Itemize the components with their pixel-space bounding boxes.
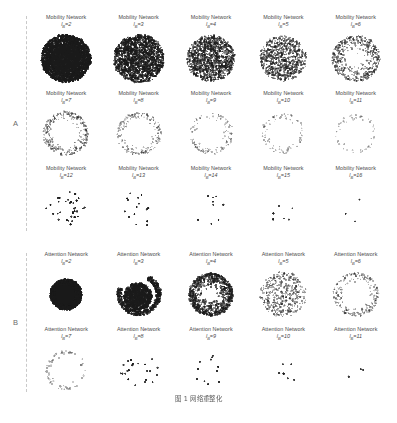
panel-title: Attention Network bbox=[189, 251, 232, 258]
panel-boxsize-label: lB=7 bbox=[61, 97, 71, 107]
pointcloud-canvas bbox=[33, 32, 99, 84]
network-pointcloud bbox=[323, 183, 389, 235]
network-panel[interactable]: Mobility NetworklB=4 bbox=[175, 14, 247, 84]
panel-boxsize-label: lB=11 bbox=[349, 333, 362, 343]
row-gap bbox=[30, 235, 392, 251]
panel-boxsize-label: lB=13 bbox=[132, 172, 145, 182]
network-panel[interactable]: Attention NetworklB=5 bbox=[247, 251, 319, 321]
pointcloud-canvas bbox=[106, 268, 172, 320]
pointcloud-canvas bbox=[250, 268, 316, 320]
network-panel[interactable]: Attention NetworklB=3 bbox=[102, 251, 174, 321]
network-pointcloud bbox=[178, 183, 244, 235]
network-pointcloud bbox=[178, 344, 244, 396]
pointcloud-canvas bbox=[323, 344, 389, 396]
panel-boxsize-label: lB=16 bbox=[349, 172, 362, 182]
panel-boxsize-label: lB=9 bbox=[206, 333, 216, 343]
network-pointcloud bbox=[106, 32, 172, 84]
panel-boxsize-label: lB=12 bbox=[60, 172, 73, 182]
pointcloud-canvas bbox=[178, 183, 244, 235]
network-pointcloud bbox=[250, 268, 316, 320]
panel-row: Mobility NetworklB=12Mobility NetworklB=… bbox=[30, 165, 392, 235]
panel-title: Attention Network bbox=[334, 251, 377, 258]
figure-root: AB Mobility NetworklB=2Mobility Networkl… bbox=[0, 0, 397, 423]
network-pointcloud bbox=[106, 183, 172, 235]
pointcloud-canvas bbox=[178, 344, 244, 396]
network-panel[interactable]: Mobility NetworklB=11 bbox=[320, 90, 392, 160]
pointcloud-canvas bbox=[33, 183, 99, 235]
network-panel[interactable]: Attention NetworklB=10 bbox=[247, 326, 319, 396]
network-pointcloud bbox=[33, 107, 99, 159]
panel-boxsize-label: lB=6 bbox=[351, 21, 361, 31]
panel-title: Attention Network bbox=[189, 326, 232, 333]
panel-boxsize-label: lB=6 bbox=[351, 258, 361, 268]
pointcloud-canvas bbox=[33, 107, 99, 159]
pointcloud-canvas bbox=[323, 107, 389, 159]
network-pointcloud bbox=[33, 344, 99, 396]
panel-title: Mobility Network bbox=[336, 90, 376, 97]
panel-boxsize-label: lB=2 bbox=[61, 258, 71, 268]
panel-title: Mobility Network bbox=[336, 14, 376, 21]
panel-title: Attention Network bbox=[262, 326, 305, 333]
network-panel[interactable]: Mobility NetworklB=7 bbox=[30, 90, 102, 160]
section-bracket-a bbox=[26, 16, 27, 231]
network-pointcloud bbox=[250, 32, 316, 84]
network-panel[interactable]: Mobility NetworklB=5 bbox=[247, 14, 319, 84]
network-pointcloud bbox=[178, 107, 244, 159]
network-panel[interactable]: Mobility NetworklB=6 bbox=[320, 14, 392, 84]
panel-title: Mobility Network bbox=[46, 90, 86, 97]
network-pointcloud bbox=[178, 32, 244, 84]
panel-title: Mobility Network bbox=[263, 90, 303, 97]
network-panel[interactable]: Mobility NetworklB=14 bbox=[175, 165, 247, 235]
network-panel[interactable]: Mobility NetworklB=13 bbox=[102, 165, 174, 235]
panel-boxsize-label: lB=4 bbox=[206, 258, 216, 268]
network-panel[interactable]: Attention NetworklB=6 bbox=[320, 251, 392, 321]
network-panel[interactable]: Attention NetworklB=8 bbox=[102, 326, 174, 396]
section-label-a: A bbox=[13, 120, 18, 128]
panel-title: Attention Network bbox=[117, 326, 160, 333]
pointcloud-canvas bbox=[106, 344, 172, 396]
network-panel[interactable]: Mobility NetworklB=9 bbox=[175, 90, 247, 160]
network-pointcloud bbox=[323, 107, 389, 159]
network-panel[interactable]: Attention NetworklB=7 bbox=[30, 326, 102, 396]
panel-title: Attention Network bbox=[117, 251, 160, 258]
panel-row: Mobility NetworklB=2Mobility NetworklB=3… bbox=[30, 14, 392, 84]
network-panel[interactable]: Attention NetworklB=11 bbox=[320, 326, 392, 396]
panel-title: Mobility Network bbox=[118, 165, 158, 172]
panel-title: Mobility Network bbox=[46, 165, 86, 172]
network-pointcloud bbox=[178, 268, 244, 320]
panel-boxsize-label: lB=3 bbox=[134, 21, 144, 31]
pointcloud-canvas bbox=[323, 268, 389, 320]
network-pointcloud bbox=[250, 344, 316, 396]
network-panel[interactable]: Mobility NetworklB=3 bbox=[102, 14, 174, 84]
network-pointcloud bbox=[106, 268, 172, 320]
panel-boxsize-label: lB=15 bbox=[277, 172, 290, 182]
network-panel[interactable]: Attention NetworklB=4 bbox=[175, 251, 247, 321]
network-pointcloud bbox=[250, 183, 316, 235]
panel-boxsize-label: lB=2 bbox=[61, 21, 71, 31]
network-pointcloud bbox=[33, 32, 99, 84]
panel-title: Mobility Network bbox=[263, 165, 303, 172]
panel-boxsize-label: lB=10 bbox=[277, 333, 290, 343]
pointcloud-canvas bbox=[250, 344, 316, 396]
panel-title: Mobility Network bbox=[118, 14, 158, 21]
network-panel[interactable]: Attention NetworklB=2 bbox=[30, 251, 102, 321]
pointcloud-canvas bbox=[178, 107, 244, 159]
network-pointcloud bbox=[323, 268, 389, 320]
network-panel[interactable]: Mobility NetworklB=2 bbox=[30, 14, 102, 84]
network-panel[interactable]: Mobility NetworklB=12 bbox=[30, 165, 102, 235]
pointcloud-canvas bbox=[250, 32, 316, 84]
network-panel[interactable]: Mobility NetworklB=10 bbox=[247, 90, 319, 160]
panel-boxsize-label: lB=8 bbox=[134, 333, 144, 343]
network-pointcloud bbox=[33, 183, 99, 235]
network-panel[interactable]: Attention NetworklB=9 bbox=[175, 326, 247, 396]
network-panel[interactable]: Mobility NetworklB=8 bbox=[102, 90, 174, 160]
panel-grid: Mobility NetworklB=2Mobility NetworklB=3… bbox=[30, 14, 392, 396]
network-panel[interactable]: Mobility NetworklB=15 bbox=[247, 165, 319, 235]
panel-title: Mobility Network bbox=[336, 165, 376, 172]
panel-boxsize-label: lB=3 bbox=[134, 258, 144, 268]
panel-boxsize-label: lB=4 bbox=[206, 21, 216, 31]
pointcloud-canvas bbox=[323, 183, 389, 235]
pointcloud-canvas bbox=[33, 268, 99, 320]
network-panel[interactable]: Mobility NetworklB=16 bbox=[320, 165, 392, 235]
pointcloud-canvas bbox=[33, 344, 99, 396]
